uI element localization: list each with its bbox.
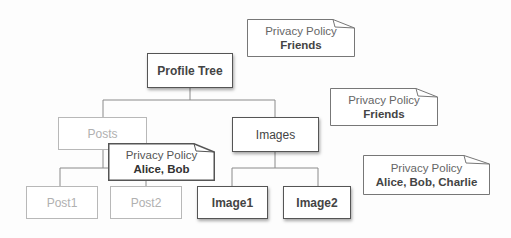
note-value: Friends	[280, 38, 322, 52]
node-label: Image1	[212, 196, 253, 210]
note-title: Privacy Policy	[391, 161, 463, 175]
node-label: Images	[256, 128, 295, 142]
node-label: Posts	[87, 127, 117, 141]
node-label: Post2	[131, 196, 162, 210]
note-title: Privacy Policy	[265, 24, 337, 38]
note-title: Privacy Policy	[348, 93, 420, 107]
node-post1[interactable]: Post1	[26, 186, 98, 219]
node-image1[interactable]: Image1	[197, 186, 268, 219]
node-post2[interactable]: Post2	[110, 186, 182, 219]
node-label: Post1	[47, 196, 78, 210]
note-title: Privacy Policy	[126, 148, 198, 162]
node-images[interactable]: Images	[232, 117, 319, 152]
note-value: Alice, Bob	[133, 162, 189, 176]
note-root-privacy-policy: Privacy Policy Friends	[247, 19, 355, 57]
note-posts-privacy-policy: Privacy Policy Alice, Bob	[108, 143, 215, 181]
node-profile-tree[interactable]: Profile Tree	[147, 53, 233, 88]
note-value: Alice, Bob, Charlie	[376, 175, 478, 189]
node-label: Image2	[296, 196, 337, 210]
note-image-children-privacy-policy: Privacy Policy Alice, Bob, Charlie	[363, 155, 490, 195]
node-image2[interactable]: Image2	[283, 186, 351, 219]
note-value: Friends	[363, 107, 405, 121]
note-images-privacy-policy: Privacy Policy Friends	[330, 88, 438, 126]
diagram-canvas: Profile Tree Posts Images Post1 Post2 Im…	[0, 0, 511, 238]
node-label: Profile Tree	[157, 64, 222, 78]
